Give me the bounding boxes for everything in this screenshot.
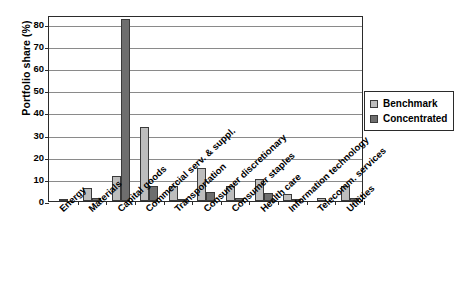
legend-item: Concentrated (370, 111, 447, 126)
x-axis-tick-labels: EnergyMaterialsCapital goodsCommercial s… (0, 0, 460, 307)
legend-label-benchmark: Benchmark (383, 98, 437, 109)
legend-swatch-concentrated-icon (370, 115, 378, 123)
bar-chart: Portfolio share (%) 01020304050607080 En… (0, 0, 460, 307)
x-tick-label: Energy (57, 184, 88, 214)
legend-item: Benchmark (370, 96, 447, 111)
chart-legend: Benchmark Concentrated (364, 91, 454, 131)
legend-swatch-benchmark-icon (370, 100, 378, 108)
legend-label-concentrated: Concentrated (383, 113, 447, 124)
